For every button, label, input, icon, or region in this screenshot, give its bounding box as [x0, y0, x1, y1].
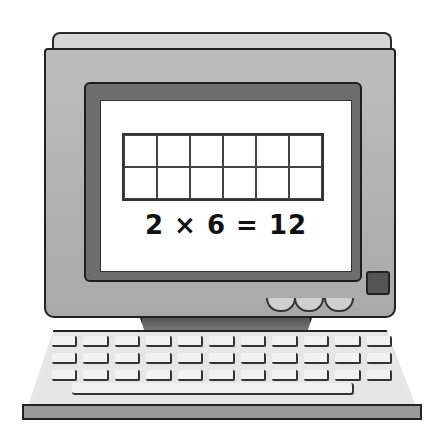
key[interactable]: [304, 353, 329, 364]
power-button[interactable]: [366, 271, 390, 295]
key[interactable]: [304, 370, 329, 381]
grid-cell: [223, 135, 256, 167]
grid-cell: [223, 167, 256, 199]
key[interactable]: [83, 370, 108, 381]
grid-cell: [190, 135, 223, 167]
key[interactable]: [241, 353, 266, 364]
key[interactable]: [209, 353, 234, 364]
keyboard-keys: [52, 336, 392, 381]
key[interactable]: [272, 370, 297, 381]
key[interactable]: [178, 336, 203, 347]
key[interactable]: [146, 370, 171, 381]
key[interactable]: [115, 336, 140, 347]
key[interactable]: [178, 353, 203, 364]
array-grid-2x6: [122, 133, 324, 201]
spacebar-key[interactable]: [72, 383, 354, 395]
key[interactable]: [83, 353, 108, 364]
key[interactable]: [115, 353, 140, 364]
key[interactable]: [52, 353, 77, 364]
key[interactable]: [209, 336, 234, 347]
key[interactable]: [304, 336, 329, 347]
key[interactable]: [178, 370, 203, 381]
key[interactable]: [335, 353, 360, 364]
key[interactable]: [272, 353, 297, 364]
multiplication-equation: 2 × 6 = 12: [100, 210, 352, 240]
grid-cell: [289, 135, 322, 167]
key[interactable]: [241, 336, 266, 347]
grid-cell: [256, 167, 289, 199]
grid-cell: [190, 167, 223, 199]
key[interactable]: [367, 353, 392, 364]
key[interactable]: [115, 370, 140, 381]
key[interactable]: [52, 370, 77, 381]
grid-cell: [157, 135, 190, 167]
grid-cell: [124, 135, 157, 167]
key[interactable]: [367, 370, 392, 381]
key[interactable]: [241, 370, 266, 381]
keyboard-front-edge: [22, 404, 422, 420]
grid-cell: [256, 135, 289, 167]
key[interactable]: [83, 336, 108, 347]
key[interactable]: [335, 370, 360, 381]
key[interactable]: [335, 336, 360, 347]
grid-cell: [289, 167, 322, 199]
key[interactable]: [209, 370, 234, 381]
grid-cell: [157, 167, 190, 199]
key[interactable]: [146, 353, 171, 364]
key[interactable]: [52, 336, 77, 347]
key[interactable]: [146, 336, 171, 347]
key[interactable]: [367, 336, 392, 347]
key[interactable]: [272, 336, 297, 347]
grid-cell: [124, 167, 157, 199]
